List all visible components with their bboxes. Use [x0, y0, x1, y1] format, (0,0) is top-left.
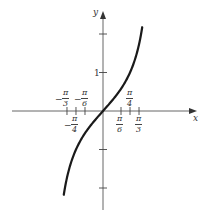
denominator: 6 — [116, 125, 123, 134]
denominator: 3 — [62, 99, 69, 108]
tangent-graph — [0, 0, 209, 219]
numerator: π — [71, 115, 78, 125]
x-axis-label: x — [193, 114, 198, 123]
numerator: π — [126, 89, 133, 99]
numerator: π — [62, 89, 69, 99]
y-axis-label: y — [93, 8, 98, 17]
numerator: π — [135, 115, 142, 125]
x-tick-label-neg-pi-3: π 3 — [62, 89, 69, 108]
denominator: 3 — [135, 125, 142, 134]
denominator: 4 — [71, 125, 78, 134]
x-tick-label-pi-3: π 3 — [135, 115, 142, 134]
x-tick-label-neg-pi-6: π 6 — [81, 89, 88, 108]
numerator: π — [116, 115, 123, 125]
x-tick-label-pi-6: π 6 — [116, 115, 123, 134]
numerator: π — [81, 89, 88, 99]
y-axis-arrow-icon — [100, 11, 106, 19]
denominator: 4 — [126, 99, 133, 108]
x-tick-label-neg-pi-4: π 4 — [71, 115, 78, 134]
y-tick-label-1: 1 — [94, 69, 100, 78]
x-tick-label-pi-4: π 4 — [126, 89, 133, 108]
denominator: 6 — [81, 99, 88, 108]
